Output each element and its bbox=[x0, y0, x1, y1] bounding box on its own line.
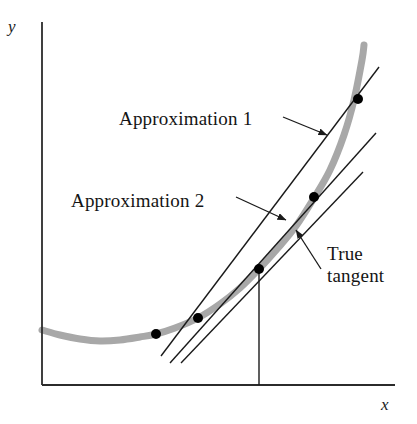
true-tangent-label-line-2: tangent bbox=[327, 265, 384, 287]
x-axis-label: x bbox=[381, 396, 389, 413]
true-tangent-label-line-1: True bbox=[327, 243, 384, 265]
approximation-1-label: Approximation 1 bbox=[119, 108, 252, 130]
data-point bbox=[254, 264, 264, 274]
data-point bbox=[151, 329, 161, 339]
approximation-2-label: Approximation 2 bbox=[71, 190, 204, 212]
leader-approximation-1 bbox=[283, 117, 327, 135]
data-point bbox=[309, 192, 319, 202]
data-point bbox=[193, 313, 203, 323]
leader-true-tangent bbox=[296, 230, 321, 269]
data-point bbox=[353, 94, 363, 104]
y-axis-label: y bbox=[8, 18, 16, 35]
true-tangent-label: True tangent bbox=[327, 243, 384, 287]
tangent-approximation-figure: y x Approximation 1 Approximation 2 True… bbox=[0, 0, 417, 424]
figure-canvas bbox=[0, 0, 417, 424]
